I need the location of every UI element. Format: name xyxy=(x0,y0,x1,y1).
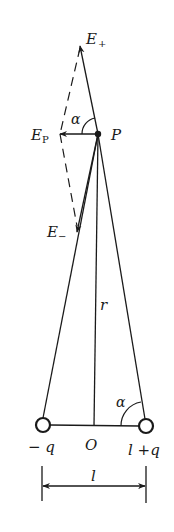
label-alpha-bottom: α xyxy=(116,394,126,410)
e-minus-vector xyxy=(77,134,98,232)
label-pos-charge: l +q xyxy=(128,441,160,459)
label-alpha-top: α xyxy=(71,111,81,127)
point-p-dot xyxy=(95,131,101,137)
r-line xyxy=(94,134,98,426)
negative-charge xyxy=(36,418,50,432)
line-pos-charge-to-p xyxy=(98,134,145,419)
dipole-axis xyxy=(50,425,139,426)
angle-arc-top xyxy=(82,118,95,134)
label-e-plus: E+ xyxy=(85,30,106,49)
line-neg-charge-to-p xyxy=(43,134,98,418)
label-r: r xyxy=(100,296,108,314)
diagram-canvas: E+ EP E− α P r α − q O l +q l xyxy=(0,0,174,532)
label-neg-charge: − q xyxy=(28,438,55,456)
dashed-construction-lower xyxy=(60,134,77,226)
label-length: l xyxy=(91,467,96,485)
dipole-diagram: E+ EP E− α P r α − q O l +q l xyxy=(0,0,174,532)
label-e-minus: E− xyxy=(46,223,66,242)
label-e-p: EP xyxy=(30,126,49,145)
positive-charge xyxy=(139,419,153,433)
label-origin: O xyxy=(85,436,97,454)
label-point-p: P xyxy=(110,126,122,144)
